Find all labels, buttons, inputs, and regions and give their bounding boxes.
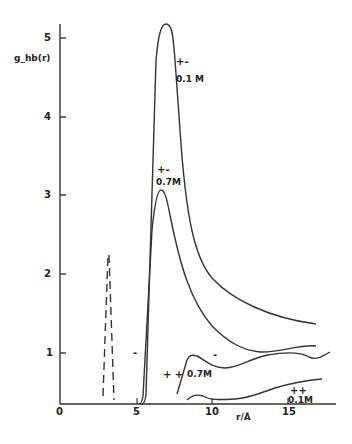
y-axis-label: g_hb(r) xyxy=(14,54,50,63)
annotation-pm-2: +- xyxy=(157,165,170,175)
annotation-0.7M-1: 0.7M xyxy=(156,178,181,187)
y-tick-5: 5 xyxy=(44,33,51,43)
annotation-minus-1: - xyxy=(133,348,137,358)
annotation-pp-1: + + xyxy=(163,370,183,380)
annotation-0.7M-2: 0.7M xyxy=(187,370,212,379)
annotation-0.1M-1: 0.1 M xyxy=(176,75,204,84)
annotation-minus-2: - xyxy=(213,350,217,360)
y-tick-2: 2 xyxy=(44,269,51,279)
y-tick-1: 1 xyxy=(46,348,53,358)
curve-pm-0.1M xyxy=(142,24,316,404)
x-tick-0: 0 xyxy=(56,407,63,417)
y-tick-3: 3 xyxy=(44,190,51,200)
annotation-0.1M-2: 0.1M xyxy=(288,396,313,405)
x-tick-5: 5 xyxy=(133,407,140,417)
x-tick-15: 15 xyxy=(282,407,296,417)
annotation-pm-1: +- xyxy=(176,57,189,67)
y-tick-4: 4 xyxy=(44,112,51,122)
dashed-curve xyxy=(103,255,114,400)
x-tick-10: 10 xyxy=(205,407,219,417)
y-ticks xyxy=(60,38,66,353)
x-axis-label: r/Å xyxy=(236,413,251,422)
